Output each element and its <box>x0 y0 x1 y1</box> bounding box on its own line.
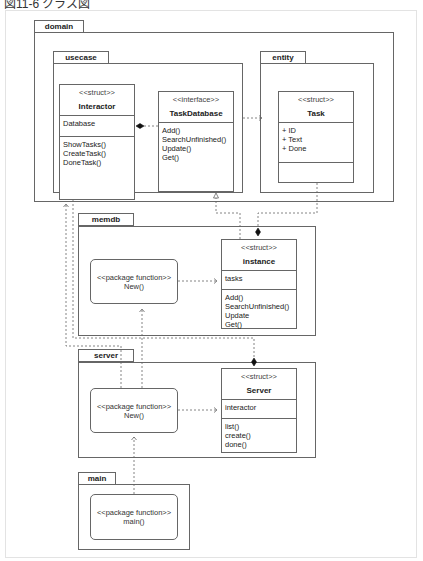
field: + Text <box>282 135 350 144</box>
stereotype: <<struct>> <box>222 372 296 381</box>
package-tab-memdb: memdb <box>78 213 134 226</box>
stereotype: <<package function>> <box>91 508 177 517</box>
stereotype: <<struct>> <box>222 243 296 252</box>
method: Update <box>225 311 293 320</box>
field: interactor <box>225 403 293 412</box>
function-main[interactable]: <<package function>> main() <box>90 494 178 540</box>
class-name: Task <box>279 109 353 118</box>
method: Get() <box>225 320 293 329</box>
field: tasks <box>225 274 293 283</box>
field: + ID <box>282 126 350 135</box>
field: Database <box>63 119 131 128</box>
class-name: Interactor <box>60 102 134 111</box>
function-name: New() <box>91 411 177 420</box>
method: Add() <box>162 126 230 135</box>
class-interactor[interactable]: <<struct>> Interactor Database ShowTasks… <box>59 84 135 200</box>
function-server-new[interactable]: <<package function>> New() <box>90 388 178 433</box>
method: list() <box>225 422 293 431</box>
method: Get() <box>162 153 230 162</box>
class-name: Server <box>222 386 296 395</box>
class-name: TaskDatabase <box>159 109 233 118</box>
class-name: instance <box>222 257 296 266</box>
method: create() <box>225 431 293 440</box>
stereotype: <<package function>> <box>91 402 177 411</box>
interface-taskdatabase[interactable]: <<interface>> TaskDatabase Add() SearchU… <box>158 91 234 192</box>
class-instance[interactable]: <<struct>> instance tasks Add() SearchUn… <box>221 239 297 329</box>
stereotype: <<interface>> <box>159 95 233 104</box>
field: + Done <box>282 144 350 153</box>
stereotype: <<struct>> <box>60 88 134 97</box>
class-task[interactable]: <<struct>> Task + ID + Text + Done <box>278 91 354 183</box>
function-name: main() <box>91 517 177 526</box>
stereotype: <<struct>> <box>279 95 353 104</box>
package-tab-server: server <box>78 349 134 362</box>
method: DoneTask() <box>63 158 131 167</box>
method: Update() <box>162 144 230 153</box>
class-server[interactable]: <<struct>> Server interactor list() crea… <box>221 368 297 453</box>
function-name: New() <box>91 282 177 291</box>
method: ShowTasks() <box>63 140 131 149</box>
function-memdb-new[interactable]: <<package function>> New() <box>90 259 178 304</box>
method: SearchUnfinished() <box>225 302 293 311</box>
stereotype: <<package function>> <box>91 273 177 282</box>
method: CreateTask() <box>63 149 131 158</box>
method: SearchUnfinished() <box>162 135 230 144</box>
method: done() <box>225 440 293 449</box>
method: Add() <box>225 293 293 302</box>
